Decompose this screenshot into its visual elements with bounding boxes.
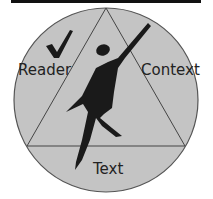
label-reader: Reader: [18, 61, 72, 79]
top-bar: [11, 0, 201, 3]
reader-context-text-diagram: Reader Context Text: [0, 0, 213, 199]
label-context: Context: [141, 61, 200, 79]
label-text: Text: [92, 160, 123, 178]
